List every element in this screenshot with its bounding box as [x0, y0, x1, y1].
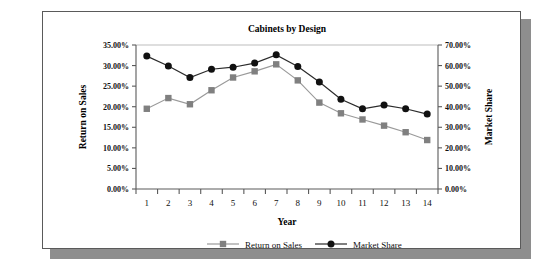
x-axis-tick-label: 14 [423, 198, 433, 208]
data-point-marker[interactable]: Market Share — Year 12: 40.8% [381, 102, 388, 109]
data-point-marker[interactable]: Market Share — Year 8: 59.6% [294, 63, 301, 70]
y-axis-left-tick-label: 20.00% [103, 103, 129, 112]
x-axis-tick-label: 1 [145, 198, 150, 208]
legend-marker-circle-icon [328, 241, 335, 248]
data-point-marker[interactable]: Return on Sales — Year 3: 20.6% [187, 101, 193, 107]
legend-label: Market Share [353, 240, 402, 249]
legend-item-return-on-sales[interactable]: Return on Sales [207, 240, 302, 249]
data-point-marker[interactable]: Market Share — Year 2: 59.8% [165, 62, 172, 69]
y-axis-left-tick-label: 35.00% [103, 41, 129, 50]
y-axis-right-tick-label: 60.00% [445, 62, 471, 71]
x-axis-tick-label: 12 [380, 198, 389, 208]
data-point-marker[interactable]: Return on Sales — Year 4: 24% [208, 87, 214, 93]
x-axis-tick-label: 8 [296, 198, 301, 208]
data-point-marker[interactable]: Return on Sales — Year 5: 27.1% [230, 74, 236, 80]
x-axis-tick-label: 7 [274, 198, 279, 208]
x-axis-tick-label: 6 [252, 198, 257, 208]
x-axis-tick-label: 9 [317, 198, 322, 208]
data-point-marker[interactable]: Return on Sales — Year 11: 16.9% [359, 116, 365, 122]
data-point-marker[interactable]: Return on Sales — Year 9: 21% [316, 99, 322, 105]
data-point-marker[interactable]: Market Share — Year 10: 43.6% [337, 96, 344, 103]
data-point-marker[interactable]: Market Share — Year 14: 36.4% [424, 111, 431, 118]
x-axis-tick-label: 10 [336, 198, 346, 208]
data-point-marker[interactable]: Return on Sales — Year 13: 13.8% [402, 129, 408, 135]
x-axis-tick-label: 5 [231, 198, 236, 208]
data-point-marker[interactable]: Market Share — Year 1: 64.6% [143, 53, 150, 60]
y-axis-right-tick-label: 10.00% [445, 164, 471, 173]
x-axis-tick-label: 11 [358, 198, 367, 208]
y-axis-left-tick-label: 25.00% [103, 82, 129, 91]
data-point-marker[interactable]: Market Share — Year 9: 52% [316, 79, 323, 86]
figure-root: Cabinets by Design0.00%5.00%10.00%15.00%… [0, 0, 547, 277]
data-point-marker[interactable]: Return on Sales — Year 7: 30.3% [273, 61, 279, 67]
y-axis-left-tick-label: 30.00% [103, 62, 129, 71]
y-axis-right-tick-label: 30.00% [445, 123, 471, 132]
chart-plot-surface[interactable]: Cabinets by Design0.00%5.00%10.00%15.00%… [43, 12, 520, 248]
y-axis-left-tick-label: 0.00% [107, 185, 129, 194]
y-axis-right-title: Market Share [484, 89, 494, 146]
data-point-marker[interactable]: Return on Sales — Year 12: 15.4% [381, 122, 387, 128]
x-axis-tick-label: 4 [209, 198, 214, 208]
data-point-marker[interactable]: Return on Sales — Year 2: 22.1% [165, 95, 171, 101]
x-axis-tick-label: 3 [188, 198, 193, 208]
y-axis-left-title: Return on Sales [78, 85, 88, 150]
y-axis-right-tick-label: 70.00% [445, 41, 471, 50]
data-point-marker[interactable]: Market Share — Year 6: 61.2% [251, 60, 258, 67]
x-axis-title: Year [278, 217, 298, 227]
y-axis-left-tick-label: 15.00% [103, 123, 129, 132]
y-axis-right-tick-label: 50.00% [445, 82, 471, 91]
data-point-marker[interactable]: Return on Sales — Year 8: 26.4% [295, 77, 301, 83]
legend-item-market-share[interactable]: Market Share [315, 240, 402, 249]
data-point-marker[interactable]: Return on Sales — Year 10: 18.4% [338, 110, 344, 116]
chart-svg[interactable]: Cabinets by Design0.00%5.00%10.00%15.00%… [43, 12, 520, 248]
y-axis-left-tick-label: 10.00% [103, 144, 129, 153]
x-axis-tick-label: 13 [401, 198, 411, 208]
data-point-marker[interactable]: Market Share — Year 13: 39% [402, 105, 409, 112]
y-axis-left-tick-label: 5.00% [107, 164, 129, 173]
y-axis-right-tick-label: 0.00% [445, 185, 467, 194]
y-axis-right-tick-label: 40.00% [445, 103, 471, 112]
data-point-marker[interactable]: Market Share — Year 7: 65.2% [273, 51, 280, 58]
data-point-marker[interactable]: Market Share — Year 5: 59.2% [230, 64, 237, 71]
data-point-marker[interactable]: Return on Sales — Year 1: 19.5% [144, 106, 150, 112]
data-point-marker[interactable]: Return on Sales — Year 6: 28.6% [251, 68, 257, 74]
legend-label: Return on Sales [245, 240, 302, 249]
legend-marker-square-icon [220, 241, 226, 247]
chart-title: Cabinets by Design [248, 24, 327, 34]
x-axis-tick-label: 2 [166, 198, 171, 208]
chart-frame: Cabinets by Design0.00%5.00%10.00%15.00%… [42, 11, 521, 249]
data-point-marker[interactable]: Market Share — Year 4: 58.2% [208, 66, 215, 73]
data-point-marker[interactable]: Market Share — Year 11: 39% [359, 105, 366, 112]
y-axis-right-tick-label: 20.00% [445, 144, 471, 153]
series-market-share: Market Share — Year 1: 64.6%Market Share… [143, 51, 430, 117]
data-point-marker[interactable]: Market Share — Year 3: 54.2% [186, 74, 193, 81]
series-return-on-sales: Return on Sales — Year 1: 19.5%Return on… [144, 61, 431, 143]
data-point-marker[interactable]: Return on Sales — Year 14: 11.9% [424, 137, 430, 143]
